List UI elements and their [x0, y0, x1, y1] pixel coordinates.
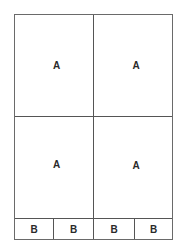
cell-b-3: B [94, 219, 134, 239]
cell-label: A [53, 159, 60, 170]
cell-label: B [30, 224, 37, 235]
layout-frame: A A A A B B B B [14, 14, 173, 240]
cell-b-4: B [135, 219, 172, 239]
cell-b-1: B [15, 219, 53, 239]
cell-label: B [110, 224, 117, 235]
cell-a-middle-left: A [15, 117, 93, 218]
cell-a-middle-right: A [94, 117, 172, 218]
cell-label: B [150, 224, 157, 235]
cell-b-2: B [54, 219, 93, 239]
cell-label: A [53, 60, 60, 71]
cell-label: B [70, 224, 77, 235]
cell-label: A [132, 160, 139, 171]
cell-a-top-left: A [15, 15, 93, 116]
cell-label: A [132, 60, 139, 71]
cell-a-top-right: A [94, 15, 172, 116]
